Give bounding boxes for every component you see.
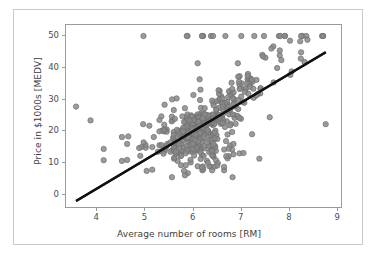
data-point [202,143,207,148]
data-point [230,86,235,91]
scatter-points [73,33,328,180]
data-point [235,61,240,66]
data-point [150,144,155,149]
data-point [126,134,131,139]
data-point [237,86,242,91]
data-point [223,138,228,143]
scatter-canvas [66,25,341,207]
data-point [198,87,203,92]
data-point [88,118,93,123]
y-tick-mark [62,162,65,163]
data-point [161,151,166,156]
y-tick-mark [62,99,65,100]
data-point [241,150,246,155]
x-tick-mark [241,208,242,211]
x-tick-mark [96,208,97,211]
data-point [178,153,183,158]
data-point [199,165,204,170]
data-point [174,127,179,132]
data-point [197,97,202,102]
data-point [205,160,210,165]
data-point [229,129,234,134]
data-point [183,163,188,168]
data-point [209,148,214,153]
regression-line-overlay [76,52,326,201]
data-point [282,33,287,38]
data-point [323,121,328,126]
data-point [230,175,235,180]
x-tick-label: 6 [190,213,195,222]
data-point [236,74,241,79]
data-point [124,157,129,162]
data-point [224,153,229,158]
data-point [229,80,234,85]
data-point [298,56,303,61]
data-point [221,147,226,152]
data-point [141,140,146,145]
data-point [230,96,235,101]
data-point [249,132,254,137]
x-axis-label: Average number of rooms [RM] [14,229,364,239]
data-point [124,141,129,146]
data-point [198,149,203,154]
data-point [251,86,256,91]
data-point [260,54,265,59]
data-point [237,115,242,120]
data-point [223,33,228,38]
data-point [252,33,257,38]
data-point [173,149,178,154]
y-tick-mark [62,194,65,195]
data-point [211,142,216,147]
y-tick-mark [62,35,65,36]
data-point [184,33,189,38]
data-point [157,117,162,122]
y-tick-mark [62,67,65,68]
data-point [209,98,214,103]
data-point [202,105,207,110]
data-point [233,121,238,126]
data-point [261,33,266,38]
data-point [159,143,164,148]
data-point [101,158,106,163]
data-point [197,130,202,135]
data-point [191,153,196,158]
data-point [187,118,192,123]
data-point [195,61,200,66]
data-point [101,146,106,151]
data-point [172,116,177,121]
data-point [188,157,193,162]
data-point [200,116,205,121]
data-point [257,156,262,161]
x-tick-label: 4 [94,213,99,222]
data-point [144,168,149,173]
data-point [169,97,174,102]
data-point [119,158,124,163]
data-point [269,46,274,51]
data-point [212,136,217,141]
data-point [180,129,185,134]
data-point [239,94,244,99]
data-point [150,167,155,172]
x-tick-mark [289,208,290,211]
data-point [171,107,176,112]
data-point [279,57,284,62]
data-point [267,115,272,120]
data-point [151,134,156,139]
data-point [227,123,232,128]
data-point [191,92,196,97]
y-tick-mark [62,130,65,131]
data-point [119,134,124,139]
data-point [181,119,186,124]
data-point [205,127,210,132]
plot-area [65,24,342,208]
data-point [147,123,152,128]
data-point [138,153,143,158]
data-point [242,89,247,94]
data-point [287,38,292,43]
data-point [182,105,187,110]
x-tick-mark [193,208,194,211]
x-tick-label: 9 [334,213,339,222]
data-point [162,102,167,107]
x-tick-mark [337,208,338,211]
data-point [199,33,204,38]
